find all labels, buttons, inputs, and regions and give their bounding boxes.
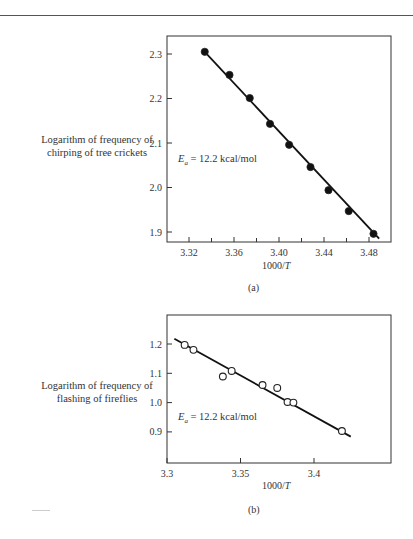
data-point (286, 141, 293, 148)
y-tick-label: 2.1 (150, 138, 163, 149)
activation-energy-annotation: Ea = 12.2 kcal/mol (177, 153, 257, 167)
x-tick-label: 3.32 (180, 247, 198, 258)
data-point (219, 373, 226, 380)
panel-b-xlabel-prefix: 1000/ (262, 480, 285, 491)
data-point (181, 341, 188, 348)
panel-b-xlabel-var: T (285, 480, 291, 491)
data-point (190, 346, 197, 353)
y-tick-label: 2.0 (150, 182, 163, 193)
data-point (290, 399, 297, 406)
data-point (259, 382, 266, 389)
y-tick-label: 1.2 (150, 339, 163, 350)
data-point (307, 163, 314, 170)
data-point (246, 94, 253, 101)
panel-a-xlabel-var: T (285, 260, 291, 271)
panel-a-xlabel: 1000/T (262, 260, 290, 271)
data-point (266, 120, 273, 127)
y-tick-label: 1.9 (150, 227, 163, 238)
y-tick-label: 1.1 (150, 368, 163, 379)
plot-frame (167, 36, 391, 242)
panel-a-label: (a) (248, 282, 259, 293)
x-tick-label: 3.48 (360, 247, 378, 258)
data-point (345, 207, 352, 214)
x-tick-label: 3.36 (225, 247, 243, 258)
data-point (201, 48, 208, 55)
x-tick-label: 3.35 (232, 468, 250, 479)
panel-b-xlabel: 1000/T (262, 480, 290, 491)
panel-a-chart: 1.92.02.12.22.33.323.363.403.443.48Ea = … (0, 0, 413, 300)
panel-a-xlabel-prefix: 1000/ (262, 260, 285, 271)
y-tick-label: 2.3 (150, 49, 163, 60)
activation-energy-annotation: Ea = 12.2 kcal/mol (177, 411, 257, 425)
data-point (228, 368, 235, 375)
data-point (226, 71, 233, 78)
x-tick-label: 3.40 (270, 247, 288, 258)
data-point (274, 385, 281, 392)
x-tick-label: 3.3 (161, 468, 174, 479)
data-point (339, 428, 346, 435)
faint-mark (32, 510, 50, 511)
x-tick-label: 3.4 (308, 468, 321, 479)
data-point (370, 230, 377, 237)
y-tick-label: 1.0 (150, 397, 163, 408)
panel-b-chart: 0.91.01.11.23.33.353.4Ea = 12.2 kcal/mol (0, 300, 413, 500)
x-tick-label: 3.44 (315, 247, 333, 258)
panel-b-label: (b) (248, 504, 260, 515)
data-point (325, 187, 332, 194)
y-tick-label: 2.2 (150, 93, 163, 104)
y-tick-label: 0.9 (150, 426, 163, 437)
